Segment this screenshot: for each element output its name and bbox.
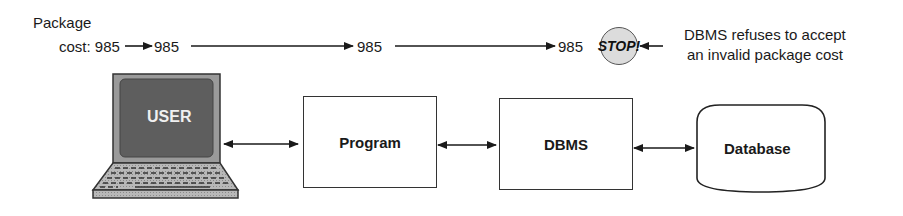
cost-value-dbms: 985	[357, 38, 382, 55]
program-box: Program	[303, 96, 437, 188]
program-label: Program	[339, 134, 401, 151]
stop-sign-icon: STOP!	[600, 27, 638, 65]
cost-value-program: 985	[154, 38, 179, 55]
laptop-icon	[93, 74, 238, 198]
note-line-1: DBMS refuses to accept	[684, 26, 846, 43]
user-label: USER	[147, 108, 191, 126]
stop-label: STOP!	[598, 38, 641, 54]
database-label: Database	[724, 140, 791, 157]
cost-value-rejected: 985	[558, 38, 583, 55]
dbms-label: DBMS	[544, 136, 588, 153]
dbms-box: DBMS	[499, 98, 633, 190]
note-line-2: an invalid package cost	[687, 46, 843, 63]
package-label: Package	[33, 14, 91, 31]
cost-label: cost: 985	[59, 38, 120, 55]
